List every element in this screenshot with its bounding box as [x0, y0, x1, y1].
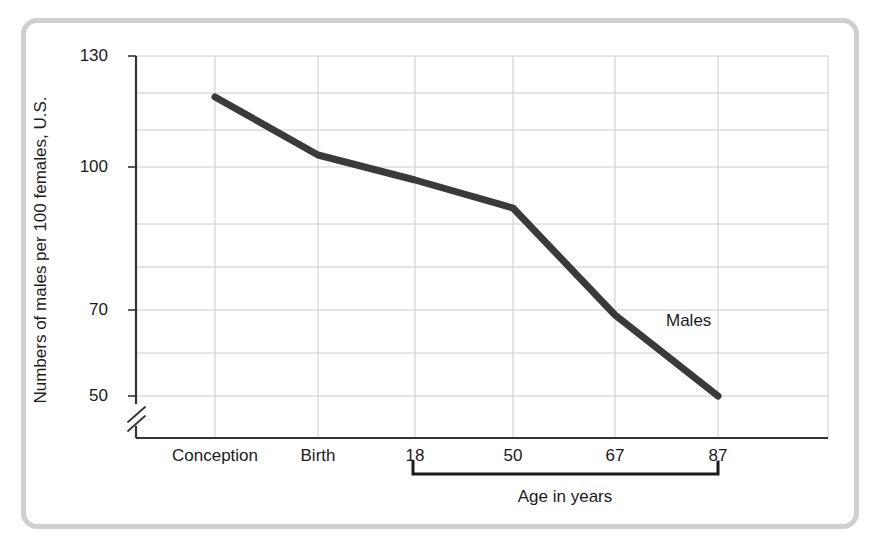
x-tick-label-67: 67	[606, 446, 625, 466]
y-axis-title: Numbers of males per 100 females, U.S.	[31, 60, 51, 440]
y-tick-label-130: 130	[62, 46, 108, 66]
y-axis-ticks	[128, 56, 136, 396]
x-tick-label-18: 18	[406, 446, 425, 466]
y-tick-label-100: 100	[62, 157, 108, 177]
x-tick-label-conception: Conception	[172, 446, 258, 466]
series-line-males	[215, 97, 718, 396]
y-tick-label-70: 70	[62, 300, 108, 320]
line-chart	[0, 0, 883, 555]
x-tick-label-50: 50	[504, 446, 523, 466]
y-tick-label-50: 50	[62, 386, 108, 406]
x-axis-title: Age in years	[518, 487, 613, 507]
x-tick-label-87: 87	[709, 446, 728, 466]
x-tick-label-birth: Birth	[301, 446, 336, 466]
vertical-gridlines	[215, 56, 828, 438]
series-annotation-males: Males	[666, 311, 711, 331]
age-range-bracket	[413, 462, 718, 474]
